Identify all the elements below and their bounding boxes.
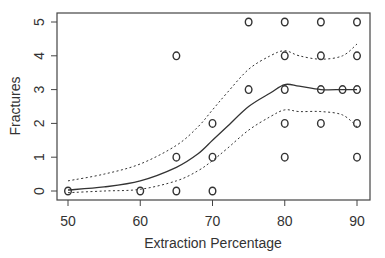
- data-point: [65, 187, 72, 195]
- data-point: [318, 18, 325, 26]
- y-tick-label: 1: [31, 153, 47, 161]
- data-point: [354, 153, 361, 161]
- fit-lines: [68, 44, 357, 193]
- data-point: [173, 187, 180, 195]
- lower-line: [68, 110, 357, 193]
- data-point: [318, 120, 325, 128]
- x-tick-label: 90: [349, 213, 365, 229]
- x-tick-label: 70: [205, 213, 221, 229]
- data-points: [65, 18, 361, 195]
- data-point: [281, 52, 288, 60]
- fit-line: [68, 84, 357, 190]
- y-axis-label: Fractures: [7, 76, 23, 135]
- data-point: [281, 18, 288, 26]
- data-point: [209, 187, 216, 195]
- data-point: [318, 52, 325, 60]
- y-tick-label: 3: [31, 85, 47, 93]
- y-tick-label: 4: [31, 52, 47, 60]
- plot-frame: [57, 13, 370, 200]
- x-axis-label: Extraction Percentage: [144, 235, 282, 251]
- axis-ticks: 5060708090012345: [31, 18, 365, 229]
- data-point: [173, 52, 180, 60]
- data-point: [354, 52, 361, 60]
- data-point: [209, 120, 216, 128]
- x-tick-label: 80: [277, 213, 293, 229]
- y-tick-label: 0: [31, 187, 47, 195]
- chart: 5060708090012345 Extraction Percentage F…: [0, 0, 385, 258]
- data-point: [354, 18, 361, 26]
- x-tick-label: 50: [60, 213, 76, 229]
- data-point: [281, 86, 288, 94]
- y-tick-label: 2: [31, 119, 47, 127]
- data-point: [137, 187, 144, 195]
- x-tick-label: 60: [132, 213, 148, 229]
- data-point: [281, 120, 288, 128]
- y-tick-label: 5: [31, 18, 47, 26]
- data-point: [354, 120, 361, 128]
- data-point: [209, 153, 216, 161]
- data-point: [173, 153, 180, 161]
- data-point: [245, 86, 252, 94]
- data-point: [245, 18, 252, 26]
- data-point: [281, 153, 288, 161]
